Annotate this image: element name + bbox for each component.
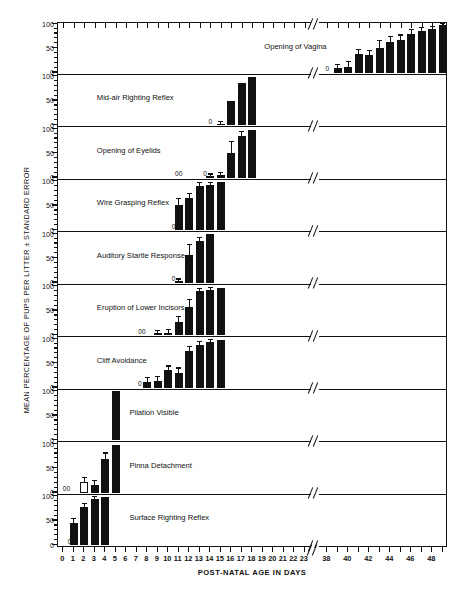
error-bar [168,367,169,371]
panel-opening-of-eyelids: 050100Opening of Eyelids000 [57,127,447,180]
error-bar-cap [208,182,213,183]
error-bar-cap [218,121,223,122]
panel-opening-of-vagina: 050100Opening of Vagina0 [57,22,447,75]
y-axis-tick-label: 50 [32,202,54,209]
bar [217,175,225,177]
x-axis-tick [146,547,147,552]
bar [376,48,384,73]
error-bar [231,142,232,153]
panel-caption: Pilation Visible [129,408,178,417]
y-axis-tick [54,247,59,248]
x-axis-tick [241,547,242,552]
y-axis-tick [54,252,59,253]
figure-root: MEAN PERCENTAGE OF PUPS PER LITTER ± STA… [0,0,465,599]
error-bar-cap [239,131,244,132]
bar [185,307,193,335]
x-axis-tick [125,547,126,552]
x-axis-tick [157,547,158,552]
bar [80,482,88,492]
x-axis-tick-label: 19 [258,554,266,563]
x-axis-tick-label: 8 [144,554,148,563]
y-axis-tick-label: 100 [32,178,54,185]
y-axis-tick [54,324,59,325]
y-axis-tick [54,482,59,483]
y-axis-tick-label: 50 [32,360,54,367]
panel-pilation-visible: 050100Pilation Visible [57,390,447,443]
y-axis-tick [54,262,59,263]
x-axis-tick-label: 10 [163,554,171,563]
x-axis-top-tick [411,23,412,29]
x-axis-top-tick [273,23,274,29]
bar [154,381,162,387]
bar [206,234,214,282]
error-bar-cap [176,198,181,199]
bar [217,124,225,125]
x-axis-tick-label: 46 [406,554,414,563]
y-axis-tick [54,104,59,105]
x-axis-tick [209,547,210,552]
y-axis-tick [54,162,59,163]
y-axis-tick-label: 50 [32,97,54,104]
x-axis-tick-label: 40 [343,554,351,563]
panel-caption: Surface Righting Reflex [129,513,209,522]
y-axis-tick [54,347,59,348]
error-bar [189,245,190,255]
x-axis-tick-label: 16 [226,554,234,563]
y-axis-tick [54,52,59,53]
y-axis-tick [54,137,59,138]
panel-cliff-avoidance: 050100Cliff Avoidance0 [57,337,447,390]
error-bar-cap [82,477,87,478]
y-axis-tick [54,95,59,96]
bar [217,340,225,387]
error-bar [189,300,190,307]
y-axis-tick [54,314,59,315]
y-axis-tick [54,382,59,383]
x-axis-top-tick [221,23,222,29]
y-axis-tick [54,57,59,58]
y-axis-tick [54,28,59,29]
y-axis-tick [54,367,59,368]
bar [217,182,225,230]
bar [196,241,204,283]
x-axis-tick-label: 48 [427,554,435,563]
error-bar [157,331,158,333]
y-axis-tick [54,487,59,488]
y-axis-tick-label: 50 [32,45,54,52]
x-axis-tick-label: 38 [322,554,330,563]
y-axis-tick [54,133,59,134]
x-axis-top-tick [284,23,285,29]
y-axis-tick [54,405,59,406]
bar [428,29,436,73]
zero-value-marker: 00 [175,171,182,178]
x-axis-tick [167,547,168,552]
panel-plot-area: 050100Opening of Eyelids000 [58,127,446,179]
error-bar-cap [176,316,181,317]
x-axis-tick-label: 0 [60,554,64,563]
error-bar [168,330,169,332]
zero-value-marker: 0 [325,66,329,73]
x-axis-tick [283,547,284,552]
y-axis-tick [54,214,59,215]
error-bar [390,37,391,42]
bar [112,445,120,492]
bar [143,382,151,387]
x-axis-top-tick [137,23,138,29]
y-axis-tick [54,477,59,478]
bar [164,333,172,335]
y-axis-tick [54,395,59,396]
error-bar [178,280,179,281]
y-axis-title: MEAN PERCENTAGE OF PUPS PER LITTER ± STA… [22,90,31,490]
y-axis-tick [54,238,59,239]
y-axis-tick [54,290,59,291]
error-bar-cap [82,503,87,504]
x-axis-top-tick [359,23,360,29]
error-bar-cap [409,29,414,30]
bar [101,459,109,492]
error-bar [73,519,74,523]
x-axis-tick-label: 7 [134,554,138,563]
x-axis-tick-label: 9 [155,554,159,563]
x-axis-top-tick [126,23,127,29]
bar [175,322,183,335]
error-bar-cap [208,339,213,340]
y-axis-tick-label: 50 [32,307,54,314]
